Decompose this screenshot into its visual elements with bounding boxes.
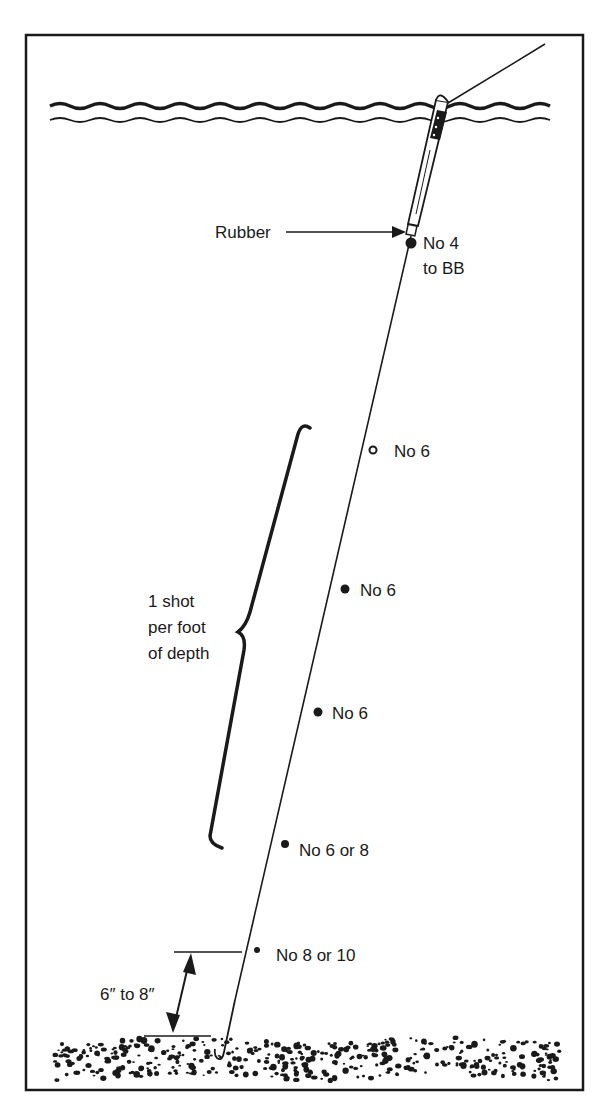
label-brace-line1: 1 shot bbox=[148, 592, 195, 611]
gravel-pebble bbox=[471, 1073, 477, 1077]
gravel-pebble bbox=[111, 1052, 114, 1054]
gravel-pebble bbox=[121, 1053, 127, 1057]
gravel-pebble bbox=[201, 1041, 204, 1043]
gravel-pebble bbox=[301, 1056, 305, 1060]
gravel-pebble bbox=[98, 1068, 104, 1072]
gravel-pebble bbox=[392, 1048, 398, 1053]
gravel-pebble bbox=[387, 1056, 392, 1060]
gravel-pebble bbox=[203, 1044, 205, 1046]
dimension-arrowhead-down bbox=[166, 1012, 180, 1033]
gravel-pebble bbox=[239, 1065, 243, 1069]
gravel-pebble bbox=[218, 1055, 221, 1057]
gravel-pebble bbox=[459, 1063, 464, 1067]
gravel-pebble bbox=[478, 1059, 483, 1064]
gravel-pebble bbox=[211, 1067, 215, 1071]
gravel-pebble bbox=[221, 1044, 224, 1046]
gravel-pebble bbox=[460, 1041, 464, 1044]
gravel-pebble bbox=[385, 1071, 388, 1073]
gravel-pebble bbox=[353, 1045, 357, 1048]
gravel-pebble bbox=[395, 1073, 399, 1077]
gravel-pebble bbox=[338, 1047, 344, 1052]
gravel-pebble bbox=[510, 1065, 516, 1069]
gravel-pebble bbox=[172, 1045, 176, 1048]
label-brace-line3: of depth bbox=[148, 644, 209, 663]
water-surface-wave-upper bbox=[50, 104, 550, 109]
gravel-pebble bbox=[409, 1037, 412, 1039]
gravel-pebble bbox=[232, 1056, 237, 1061]
gravel-pebble bbox=[290, 1061, 295, 1064]
gravel-pebble bbox=[147, 1072, 153, 1077]
gravel-pebble bbox=[320, 1058, 323, 1061]
gravel-pebble bbox=[542, 1047, 547, 1050]
gravel-pebble bbox=[482, 1070, 488, 1076]
gravel-pebble bbox=[264, 1060, 267, 1062]
gravel-pebble bbox=[349, 1041, 354, 1046]
gravel-pebble bbox=[305, 1046, 311, 1051]
frame-border bbox=[26, 35, 583, 1090]
gravel-pebble bbox=[82, 1049, 85, 1051]
label-brace-line2: per foot bbox=[148, 618, 206, 637]
gravel-pebble bbox=[548, 1042, 551, 1045]
gravel-pebble bbox=[186, 1072, 189, 1074]
gravel-pebble bbox=[207, 1070, 212, 1074]
gravel-pebble bbox=[275, 1054, 280, 1059]
gravel-pebble bbox=[494, 1056, 499, 1059]
gravel-pebble bbox=[179, 1055, 182, 1057]
gravel-pebble bbox=[520, 1072, 526, 1077]
gravel-pebble bbox=[89, 1049, 92, 1052]
gravel-pebble bbox=[245, 1041, 250, 1044]
gravel-pebble bbox=[105, 1060, 112, 1064]
gravel-pebble bbox=[501, 1074, 505, 1078]
gravel-pebble bbox=[171, 1066, 174, 1069]
gravel-pebble bbox=[328, 1042, 331, 1045]
gravel-pebble bbox=[301, 1053, 304, 1056]
gravel-pebble bbox=[235, 1073, 239, 1077]
gravel-pebble bbox=[538, 1068, 541, 1071]
gravel-pebble bbox=[435, 1063, 439, 1067]
gravel-pebble bbox=[270, 1075, 273, 1077]
gravel-pebble bbox=[453, 1042, 456, 1044]
gravel-pebble bbox=[332, 1075, 338, 1081]
gravel-pebble bbox=[481, 1065, 486, 1070]
gravel-pebble bbox=[129, 1039, 133, 1043]
gravel-pebble bbox=[456, 1056, 462, 1061]
gravel-pebble bbox=[227, 1063, 232, 1068]
shot-no8-or-10 bbox=[254, 947, 260, 953]
gravel-pebble bbox=[360, 1065, 363, 1067]
hook-icon bbox=[215, 1000, 235, 1059]
shot-no6-or-8 bbox=[281, 840, 289, 848]
gravel-pebble bbox=[303, 1043, 307, 1046]
gravel-pebble bbox=[148, 1062, 151, 1065]
gravel-pebble bbox=[469, 1071, 472, 1074]
gravel-pebble bbox=[516, 1041, 520, 1044]
gravel-pebble bbox=[330, 1054, 333, 1057]
gravel-pebble bbox=[549, 1053, 555, 1058]
gravel-pebble bbox=[317, 1050, 320, 1053]
gravel-pebble bbox=[334, 1053, 340, 1059]
gravel-pebble bbox=[157, 1064, 160, 1066]
gravel-pebble bbox=[247, 1048, 253, 1054]
gravel-pebble bbox=[274, 1042, 281, 1048]
gravel-pebble bbox=[510, 1045, 517, 1051]
gravel-pebble bbox=[295, 1057, 297, 1059]
shot-no6-a bbox=[370, 447, 377, 454]
gravel-pebble bbox=[415, 1060, 419, 1063]
gravel-pebble bbox=[185, 1045, 189, 1049]
gravel-pebble bbox=[434, 1048, 439, 1052]
gravel-pebble bbox=[547, 1066, 551, 1069]
gravel-pebble bbox=[440, 1060, 445, 1064]
shot-no6-b bbox=[341, 585, 350, 594]
gravel-pebble bbox=[253, 1071, 259, 1076]
line-to-rod bbox=[448, 44, 545, 103]
gravel-pebble bbox=[485, 1056, 491, 1061]
gravel-pebble bbox=[154, 1071, 159, 1076]
gravel-pebble bbox=[471, 1041, 478, 1048]
gravel-pebble bbox=[63, 1055, 66, 1058]
gravel-pebble bbox=[199, 1059, 204, 1063]
gravel-pebble bbox=[367, 1044, 370, 1046]
gravel-pebble bbox=[269, 1066, 275, 1070]
gravel-pebble bbox=[310, 1056, 316, 1062]
gravel-pebble bbox=[82, 1069, 85, 1072]
gravel-pebble bbox=[89, 1047, 92, 1050]
gravel-pebble bbox=[343, 1063, 345, 1065]
